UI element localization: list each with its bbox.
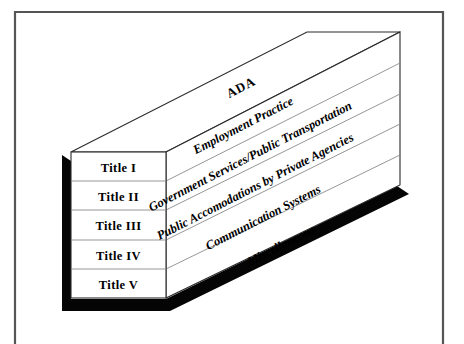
front-row-label-title-5: Title V bbox=[99, 278, 139, 292]
ada-titles-diagram: Title I Title II Title III Title IV Titl… bbox=[0, 0, 464, 344]
figure-root: Title I Title II Title III Title IV Titl… bbox=[0, 0, 464, 344]
front-row-label-title-4: Title IV bbox=[96, 249, 141, 263]
front-row-label-title-2: Title II bbox=[98, 190, 139, 204]
front-row-label-title-3: Title III bbox=[95, 219, 141, 233]
front-row-label-title-1: Title I bbox=[101, 161, 137, 175]
